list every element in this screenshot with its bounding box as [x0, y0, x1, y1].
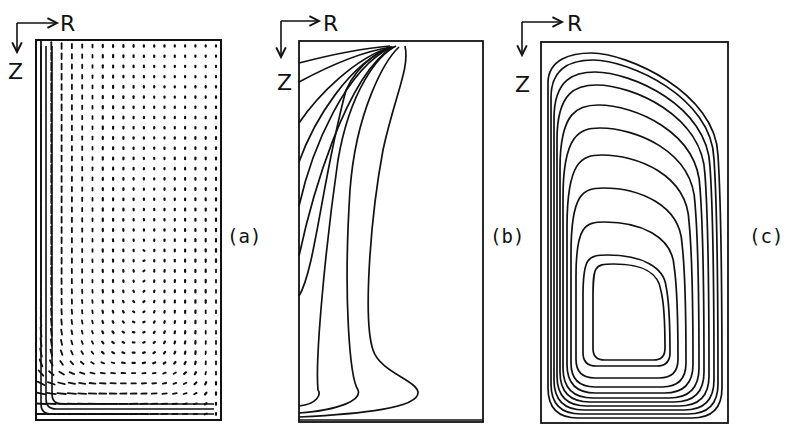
panel-label-b: (b): [490, 225, 524, 247]
streamline: [593, 264, 665, 360]
domain-box-a: [36, 40, 221, 420]
axis-label-z: Z: [8, 59, 23, 84]
panel-label-a: (a): [227, 225, 261, 247]
panel-label-c: (c): [749, 225, 783, 247]
axis-indicator-b: R Z: [277, 11, 338, 95]
velocity-vector-field: [37, 42, 217, 415]
axis-label-z: Z: [515, 72, 530, 97]
panel-a: R Z (a): [8, 11, 261, 420]
streamline: [583, 255, 670, 366]
streamline: [548, 53, 722, 418]
panel-b: R Z (b): [277, 11, 524, 422]
figure-canvas: R Z (a) R Z (b): [0, 0, 792, 430]
axis-label-z: Z: [277, 70, 292, 95]
panel-c: R Z (c): [515, 11, 783, 423]
streamlines-c: [548, 53, 722, 418]
axis-label-r: R: [60, 11, 75, 36]
domain-box-b: [299, 41, 483, 422]
contour-lines-b: [299, 46, 483, 420]
axis-label-r: R: [323, 11, 338, 36]
axis-label-r: R: [567, 11, 582, 36]
